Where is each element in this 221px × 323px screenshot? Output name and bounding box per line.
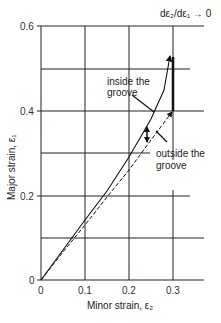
x-axis-label: Minor strain, ε₂ (87, 300, 153, 311)
x-tick-0.3: 0.3 (166, 285, 180, 296)
tick-marks (37, 26, 41, 280)
top-annotation: dε₂/dε₁ → 0 (160, 8, 212, 19)
y-tick-0.6: 0.6 (20, 21, 34, 32)
y-tick-0.4: 0.4 (20, 106, 34, 117)
strain-chart: dε₂/dε₁ → 0 inside the groove outside th… (0, 0, 221, 323)
y-tick-0.2: 0.2 (20, 191, 34, 202)
outside-label-2: groove (156, 160, 187, 171)
inside-groove-curve (41, 56, 170, 280)
x-tick-0.1: 0.1 (78, 285, 92, 296)
x-tick-0: 0 (38, 285, 44, 296)
outside-leader (156, 131, 167, 142)
y-tick-0: 0 (29, 275, 35, 286)
outside-label-1: outside the (156, 148, 205, 159)
inside-label-1: inside the (107, 76, 150, 87)
inside-label-2: groove (107, 87, 138, 98)
x-tick-0.2: 0.2 (122, 285, 136, 296)
y-axis-label: Major strain, ε₁ (6, 134, 17, 200)
